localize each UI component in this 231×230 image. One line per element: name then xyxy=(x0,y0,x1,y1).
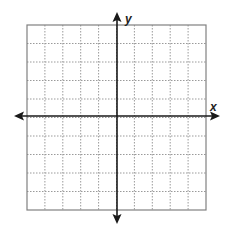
coordinate-plane: y x xyxy=(0,0,231,230)
x-axis-label: x xyxy=(209,100,218,114)
y-axis-label: y xyxy=(124,12,133,26)
